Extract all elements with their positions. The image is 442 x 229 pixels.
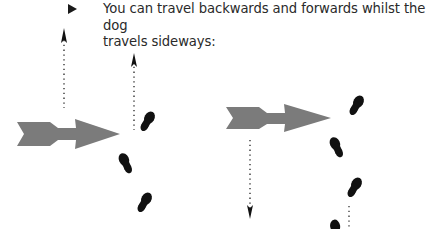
footprint-icon: [329, 219, 343, 229]
footprint-icon: [328, 135, 346, 159]
footprint-icon: [345, 176, 364, 200]
direction-arrow-right-icon: [226, 104, 331, 132]
footprints-right-icon: [328, 94, 366, 229]
footprint-icon: [117, 151, 135, 175]
footprint-icon: [347, 94, 366, 118]
up-dotted-arrow-left-icon: [61, 28, 67, 108]
footprint-icon: [138, 110, 157, 134]
up-dotted-arrow-center-icon: [131, 53, 137, 130]
footprint-icon: [135, 191, 154, 215]
down-dotted-arrow-icon: [247, 140, 253, 219]
footprints-left-icon: [117, 110, 157, 215]
illustration: [0, 0, 442, 229]
direction-arrow-left-icon: [17, 119, 120, 149]
